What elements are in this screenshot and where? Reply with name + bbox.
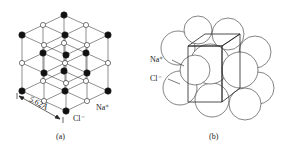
na-ion (105, 60, 110, 65)
na-ion (40, 78, 45, 83)
cl-label-b: Cl⁻ (150, 74, 162, 83)
cl-ion (40, 50, 46, 56)
cl-ion (105, 88, 111, 94)
na-ion (63, 80, 68, 85)
cl-ion (61, 12, 67, 18)
cl-ion (83, 50, 89, 56)
na-ion (84, 98, 89, 103)
na-ion (84, 42, 89, 47)
cl-ion (62, 88, 68, 94)
caption-b: (b) (209, 132, 219, 141)
cl-label-a: Cl⁻ (73, 114, 85, 123)
cl-ion (63, 52, 69, 58)
na-ion (19, 60, 24, 65)
cl-ion (63, 108, 69, 114)
cl-ion (61, 68, 67, 74)
na-ion (62, 60, 67, 65)
cl-ion (105, 32, 111, 38)
cl-ion (19, 88, 25, 94)
cl-ion (41, 70, 47, 76)
na-ion (83, 22, 88, 27)
na-ion (83, 78, 88, 83)
na-label-b: Na⁺ (150, 55, 163, 64)
nacl-figure: 5.62Å Na⁺ Cl⁻ (a) Na⁺ Cl⁻ (b) (0, 0, 286, 153)
na-ion (40, 22, 45, 27)
cl-ion (19, 32, 25, 38)
dimension-label: 5.62Å (28, 95, 50, 112)
caption-a: (a) (56, 132, 65, 141)
cl-ion (84, 70, 90, 76)
na-ion (61, 40, 66, 45)
na-ion (41, 42, 46, 47)
cl-ion (62, 32, 68, 38)
na-label-a: Na⁺ (96, 103, 109, 112)
space-filling-panel-b (161, 16, 274, 120)
